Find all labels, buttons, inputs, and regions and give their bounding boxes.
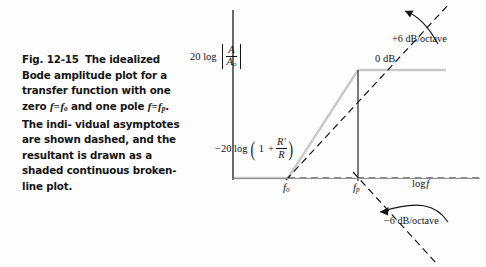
x-tick-label-fp: fp	[353, 181, 360, 194]
resistance-denominator: R	[277, 149, 285, 160]
right-paren: )	[288, 141, 293, 157]
gain-ratio-fraction: A Ao	[226, 45, 238, 69]
caption-math-pole: f= fp	[148, 100, 165, 112]
minus6-db-octave-label: −6 dB/octave	[384, 215, 439, 226]
caption-line-7: The indi-	[22, 118, 72, 130]
gain-ratio-denominator: Ao	[226, 57, 238, 69]
y-axis-label-prefix: 20 log	[190, 51, 217, 62]
caption-period: .	[165, 100, 169, 112]
resultant-broken-line	[233, 70, 446, 178]
abs-bar-right	[240, 44, 241, 69]
caption-line-9: shown dashed, and the	[44, 133, 176, 145]
left-paren: (	[251, 141, 256, 157]
low-frequency-gain-label: −20 log ( 1 + R′ R )	[215, 137, 294, 160]
figure-number: Fig. 12-15	[22, 53, 79, 65]
plus6-asymptote-dashed	[286, 4, 449, 180]
caption-line-5: and one	[71, 100, 117, 112]
resistance-ratio-fraction: R′ R	[276, 137, 287, 160]
resultant-rising-segment	[288, 70, 358, 178]
caption-line-1: The idealized	[85, 53, 160, 65]
caption-line-10: resultant is drawn as a	[22, 149, 152, 161]
figure-caption: Fig. 12-15The idealized Bode amplitude p…	[22, 52, 190, 195]
x-tick-label-fo: fo	[283, 181, 290, 194]
low-frequency-gain-prefix: −20 log	[215, 143, 247, 154]
abs-bar-left	[222, 44, 223, 69]
low-frequency-gain-one: 1	[259, 143, 264, 154]
resistance-numerator: R′	[276, 137, 287, 148]
caption-line-6: pole	[120, 100, 144, 112]
zero-db-label: 0 dB	[375, 53, 395, 64]
x-axis-label: log f	[412, 178, 429, 189]
gain-ratio-numerator: A	[227, 45, 235, 56]
y-axis-label: 20 log A Ao	[190, 44, 243, 69]
caption-line-2: Bode amplitude plot for	[22, 69, 157, 81]
plus6-db-octave-label: +6 dB/octave	[392, 33, 447, 44]
caption-math-zero: f= fo	[50, 100, 67, 112]
bode-plot: 20 log A Ao −20 log ( 1 + R′ R ) 0 dB	[190, 0, 486, 267]
figure-root: Fig. 12-15The idealized Bode amplitude p…	[0, 0, 486, 267]
low-frequency-gain-plus: +	[268, 143, 274, 154]
caption-line-11: shaded continuous	[22, 164, 129, 176]
